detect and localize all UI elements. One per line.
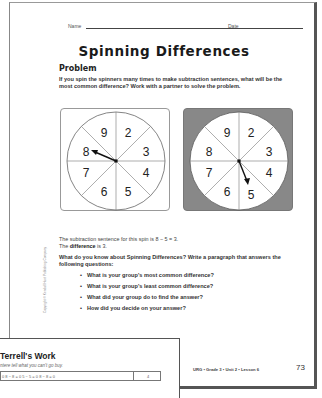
question-list: What is your group's most common differe… xyxy=(80,272,214,316)
table-cell: 0 8 − 8 = 0 5 − 5 = 0 8 − 8 = 0 xyxy=(2,374,55,379)
sentence-line-1: The subtraction sentence for this spin i… xyxy=(59,236,299,243)
spinner-wheel-icon: 92 34 56 78 xyxy=(61,109,171,212)
list-item: How did you decide on your answer? xyxy=(80,305,214,316)
list-item: What is your group's most common differe… xyxy=(80,272,214,283)
date-label: Date xyxy=(228,23,239,29)
question-prompt: What do you know about Spinning Differen… xyxy=(59,254,299,268)
svg-text:8: 8 xyxy=(206,145,213,159)
table-cell-value: 4 xyxy=(147,374,149,379)
worksheet-page: Name Date Spinning Differences Problem I… xyxy=(9,2,317,389)
spinner-right: 92 34 56 78 xyxy=(183,108,293,211)
problem-heading: Problem xyxy=(59,64,97,73)
page-number: 73 xyxy=(296,363,305,372)
svg-text:2: 2 xyxy=(248,126,255,140)
name-label: Name xyxy=(68,23,81,29)
copyright-text: Copyright © Kendall Hunt Publishing Comp… xyxy=(43,247,47,313)
spinner-left: 92 34 56 78 xyxy=(60,108,170,211)
spinner-wheel-icon: 92 34 56 78 xyxy=(184,109,294,212)
svg-text:7: 7 xyxy=(206,166,213,180)
svg-text:4: 4 xyxy=(143,166,150,180)
svg-text:6: 6 xyxy=(101,185,108,199)
page-title: Spinning Differences xyxy=(10,43,318,59)
list-item: What did your group do to find the answe… xyxy=(80,294,214,305)
name-date-row: Name Date xyxy=(58,23,308,33)
table-divider xyxy=(133,372,134,380)
svg-text:4: 4 xyxy=(266,166,273,180)
svg-text:5: 5 xyxy=(125,185,132,199)
overlapping-page: Terrell's Work ntere tell what you can't… xyxy=(0,338,180,398)
overlay-table-row: 0 8 − 8 = 0 5 − 5 = 0 8 − 8 = 0 4 xyxy=(0,371,161,381)
overlay-subtitle: ntere tell what you can't go buy. xyxy=(0,363,63,368)
overlay-title: Terrell's Work xyxy=(0,351,56,361)
sentence-line-2: The difference is 3. xyxy=(59,243,299,250)
problem-text: If you spin the spinners many times to m… xyxy=(59,76,289,90)
svg-text:2: 2 xyxy=(125,126,132,140)
example-sentence: The subtraction sentence for this spin i… xyxy=(59,236,299,249)
svg-text:3: 3 xyxy=(143,145,150,159)
svg-text:6: 6 xyxy=(224,185,231,199)
svg-text:8: 8 xyxy=(83,145,90,159)
svg-text:9: 9 xyxy=(224,126,231,140)
footer-text: URG • Grade 3 • Unit 2 • Lesson 6 xyxy=(193,367,259,372)
svg-text:5: 5 xyxy=(248,188,255,202)
svg-text:7: 7 xyxy=(83,166,90,180)
list-item: What is your group's least common differ… xyxy=(80,283,214,294)
date-field-line[interactable] xyxy=(242,28,303,29)
svg-text:9: 9 xyxy=(101,126,108,140)
svg-text:3: 3 xyxy=(266,145,273,159)
